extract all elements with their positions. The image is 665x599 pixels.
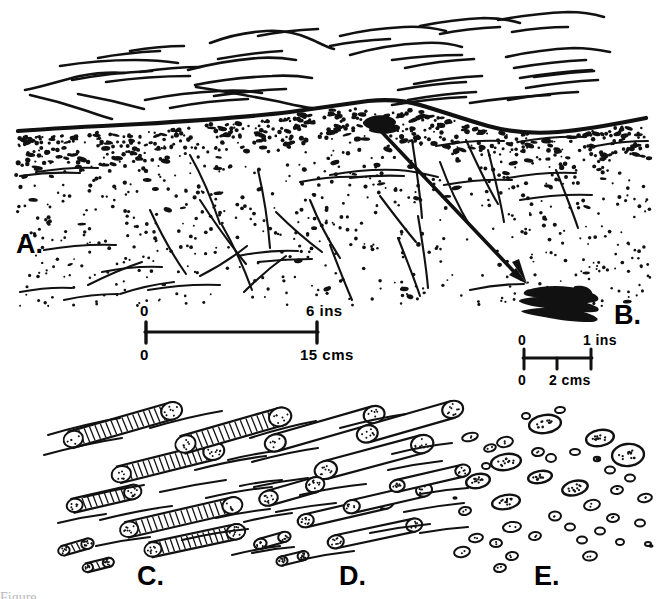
burrow-cross-section [611, 485, 624, 495]
figure-root: 0 6 ins 0 15 cms A. 0 1 ins 0 2 cms B. [0, 0, 665, 599]
burrow-cross-section [490, 452, 522, 472]
panel-e-traces [452, 406, 653, 576]
burrow-cross-section [635, 520, 645, 527]
scale-b-bottom-left-label: 0 [518, 372, 526, 388]
burrow-cross-section [565, 524, 575, 531]
burrow-cross-section [453, 546, 470, 559]
scale-b-top-left-label: 0 [518, 332, 526, 348]
burrow-cross-section [502, 521, 521, 533]
burrow-cross-section [528, 413, 562, 435]
burrow-cross-section [483, 443, 496, 453]
burrow-cross-section [468, 533, 483, 543]
burrow-hairpin [57, 537, 95, 557]
burrow-cross-section [577, 537, 587, 544]
panel-label-b: B. [614, 300, 641, 330]
burrow-cross-section [605, 467, 615, 474]
panel-a-laminae [25, 12, 610, 119]
panel-label-c: C. [137, 561, 164, 591]
panel-a-contact-surface [18, 100, 646, 133]
burrow-cross-section [546, 454, 556, 462]
scale-bar-b: 0 1 ins 0 2 cms [518, 332, 617, 388]
panel-label-a: A. [16, 229, 43, 259]
burrow-cross-section [506, 551, 519, 561]
scale-bar-a: 0 6 ins 0 15 cms [140, 302, 354, 363]
scale-b-top-right-label: 1 ins [583, 332, 617, 348]
scale-b-bottom-right-label: 2 cms [549, 372, 591, 388]
scale-a-bottom-left-label: 0 [140, 346, 149, 363]
burrow-cross-section [493, 563, 506, 573]
panel-label-e: E. [534, 561, 560, 591]
burrow-hairpin [82, 557, 115, 574]
caption-strip: Figure ... [0, 591, 665, 599]
burrow-cross-section [458, 506, 471, 516]
burrow-cross-section [616, 539, 624, 545]
burrow-cross-section [482, 463, 490, 469]
panel-a-specimen-blob [363, 115, 400, 134]
burrow-tube [326, 517, 423, 550]
scale-a-bottom-right-label: 15 cms [300, 346, 354, 363]
burrow-cross-section [583, 498, 601, 511]
burrow-cross-section [555, 406, 566, 413]
burrow-cross-section [561, 478, 590, 498]
scale-a-top-right-label: 6 ins [306, 302, 343, 319]
burrow-hairpin [61, 400, 184, 451]
panel-b-specimen [519, 286, 599, 322]
burrow-cross-section [595, 528, 605, 535]
burrow-cross-section [625, 475, 635, 482]
scale-a-top-left-label: 0 [140, 302, 149, 319]
burrow-cross-section [461, 431, 478, 443]
burrow-cross-section [522, 413, 530, 419]
figure-canvas: 0 6 ins 0 15 cms A. 0 1 ins 0 2 cms B. [0, 0, 665, 599]
burrow-cross-section [570, 449, 580, 455]
burrow-cross-section [611, 442, 645, 467]
panel-label-d: D. [339, 561, 366, 591]
